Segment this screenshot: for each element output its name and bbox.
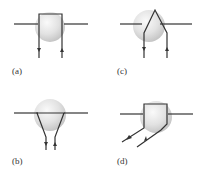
label-d: (d) (117, 156, 128, 166)
sphere (133, 10, 165, 42)
arrow-up-icon (60, 48, 64, 52)
arrow-up-icon (53, 142, 57, 146)
panel-b: (b) (0, 90, 100, 180)
label-b: (b) (12, 156, 23, 166)
arrow-down-icon (142, 47, 146, 51)
diagram-d (100, 90, 200, 180)
label-c: (c) (117, 66, 127, 76)
arrow-down-icon (37, 48, 41, 52)
label-a: (a) (12, 66, 22, 76)
panel-d: (d) (100, 90, 200, 180)
diagram-a (0, 0, 100, 90)
arrow-up-icon (165, 47, 169, 51)
panel-a: (a) (0, 0, 100, 90)
panel-c: (c) (100, 0, 200, 90)
sphere (34, 99, 66, 131)
arrow-down-icon (44, 142, 48, 146)
diagram-b (0, 90, 100, 180)
diagram-c (100, 0, 200, 90)
